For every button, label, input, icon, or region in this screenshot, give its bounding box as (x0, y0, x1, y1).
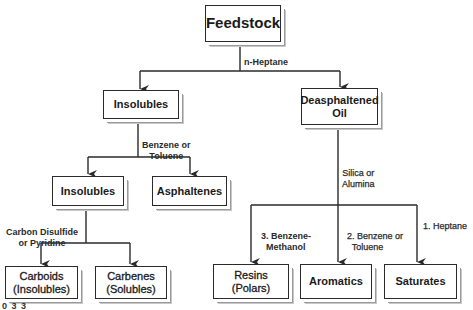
edge-label-benzene-or-toluene-1: Benzene or Toluene (142, 130, 191, 161)
benzene-or-toluene-2-text: 2. Benzene or Toluene (342, 231, 403, 251)
node-deasphaltened-oil-label: Deasphaltened Oil (300, 94, 378, 119)
node-resins-label: Resins (Polars) (232, 269, 271, 294)
figure-footnote: 0 3 3 (2, 301, 27, 310)
node-deasphaltened-oil: Deasphaltened Oil (301, 88, 378, 125)
edge-label-silica-or-alumina: Silica or Alumina (342, 158, 375, 189)
benzene-methanol-text: 3. Benzene- Methanol (256, 231, 311, 251)
node-insolubles-2-label: Insolubles (61, 185, 115, 197)
heptane-text: 1. Heptane (423, 221, 467, 231)
node-carboids: Carboids (Insolubles) (5, 266, 78, 299)
edge-label-carbon-disulfide: Carbon Disulfide or Pyridine (6, 217, 78, 248)
n-heptane-text: n-Heptane (244, 57, 288, 67)
edge-label-benzene-or-toluene-2: 2. Benzene or Toluene (342, 221, 403, 252)
benzene-or-toluene-text: Benzene or Toluene (142, 140, 191, 160)
node-saturates-label: Saturates (395, 275, 445, 287)
node-asphaltenes: Asphaltenes (152, 176, 227, 206)
carbon-disulfide-text: Carbon Disulfide or Pyridine (6, 227, 78, 247)
node-insolubles-1-label: Insolubles (114, 98, 168, 110)
node-resins: Resins (Polars) (213, 264, 289, 299)
edge-label-n-heptane: n-Heptane (244, 57, 288, 67)
node-feedstock: Feedstock (205, 5, 281, 42)
node-saturates: Saturates (384, 264, 457, 299)
node-carbenes-label: Carbenes (Solubles) (106, 270, 156, 295)
node-feedstock-label: Feedstock (206, 15, 280, 32)
node-carboids-label: Carboids (Insolubles) (13, 270, 70, 295)
node-insolubles-2: Insolubles (52, 176, 124, 206)
node-asphaltenes-label: Asphaltenes (157, 185, 222, 197)
edge-label-benzene-methanol: 3. Benzene- Methanol (256, 221, 311, 252)
edge-label-heptane: 1. Heptane (423, 221, 467, 231)
silica-or-alumina-text: Silica or Alumina (342, 168, 375, 188)
node-carbenes: Carbenes (Solubles) (95, 266, 167, 299)
node-insolubles-1: Insolubles (103, 90, 179, 119)
node-aromatics-label: Aromatics (309, 275, 363, 287)
node-aromatics: Aromatics (300, 264, 372, 299)
